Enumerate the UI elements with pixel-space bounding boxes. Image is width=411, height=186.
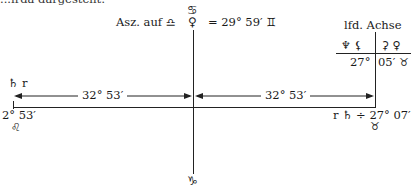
running-axis-right-symbols: ⚳ ♀ — [381, 40, 401, 51]
gemini-symbol: ♊ — [266, 16, 276, 29]
header-fragment: ...irda dargestellt: — [0, 0, 105, 6]
ascendant-text: Asz. auf — [116, 15, 162, 29]
running-axis-divider — [336, 53, 411, 54]
ascendant-value: = 29° 59′ ♊ — [208, 17, 276, 29]
left-distance-label: 32° 53′ — [78, 90, 127, 102]
capricorn-symbol: ♑ — [187, 175, 198, 186]
ascendant-label: Asz. auf ♎ — [116, 17, 176, 29]
left-marker-value: 2° 53′ — [2, 110, 36, 122]
taurus-symbol: ♉ — [399, 56, 409, 69]
saturn-retrograde-label: ♄ r — [8, 78, 27, 90]
running-axis-left-symbols: ♆ ⚸ — [341, 40, 362, 51]
right-distance-label: 32° 53′ — [261, 90, 310, 102]
running-axis-line — [375, 32, 376, 108]
running-axis-title: lfd. Achse — [344, 20, 401, 32]
running-axis-right-value: 05′ — [378, 55, 395, 69]
horizontal-axis-line — [13, 107, 376, 108]
ascendant-degree: = 29° 59′ — [208, 15, 263, 29]
running-axis-left-value: 27° — [350, 57, 370, 69]
leo-symbol: ♌ — [11, 122, 21, 133]
venus-symbol: ♀ — [188, 16, 197, 28]
right-distance-arrow: 32° 53′ — [195, 91, 374, 101]
right-taurus-symbol: ♉ — [370, 121, 380, 132]
left-distance-arrow: 32° 53′ — [14, 91, 192, 101]
central-axis-line — [193, 30, 194, 174]
libra-symbol: ♎ — [166, 16, 176, 29]
